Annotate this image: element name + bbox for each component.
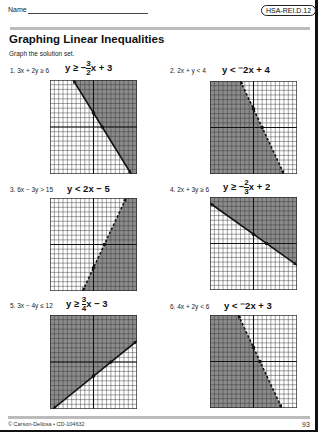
graph-problem-1 (50, 80, 137, 174)
problem-6-label: 6. 4x + 2y < 6 (170, 303, 209, 310)
standard-badge: HSA-REI.D.12 (261, 5, 316, 16)
graph-problem-6 (210, 315, 297, 408)
page-title: Graphing Linear Inequalities (9, 33, 164, 45)
problem-4-label: 4. 2x + 3y ≥ 6 (170, 186, 209, 193)
problem-1-answer: y ≥ −32x + 3 (65, 60, 112, 77)
page-number: 93 (302, 421, 310, 428)
name-label: Name (8, 6, 27, 13)
graph-problem-5 (50, 315, 137, 409)
instructions: Graph the solution set. (9, 50, 74, 57)
graph-problem-3 (50, 198, 137, 291)
name-blank-line (28, 13, 148, 14)
problem-5-label: 5. 3x − 4y ≤ 12 (10, 302, 53, 309)
footer-divider (8, 416, 310, 419)
graph-problem-4 (210, 197, 297, 290)
problem-1-label: 1. 3x + 2y ≥ 6 (10, 67, 49, 74)
header-divider (10, 27, 310, 30)
problem-3-label: 3. 6x − 3y > 15 (10, 186, 53, 193)
problem-2-answer: y < ⁻2x + 4 (222, 64, 270, 75)
problem-5-answer: y ≥ 34x − 3 (66, 296, 108, 313)
problem-6-answer: y < ⁻2x + 3 (224, 300, 272, 311)
problem-4-answer: y ≥ −23x + 2 (223, 179, 270, 196)
graph-problem-2 (210, 81, 297, 174)
copyright: © Carson-Dellosa • CD-104632 (8, 421, 85, 427)
problem-2-label: 2. 2x + y < 4 (170, 67, 206, 74)
problem-3-answer: y < 2x − 5 (67, 183, 110, 194)
